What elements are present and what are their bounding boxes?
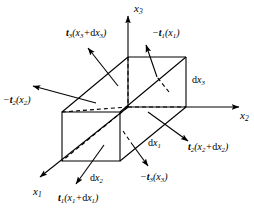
label-dx1: dx1 bbox=[148, 138, 161, 148]
axis-label-x2: x2 bbox=[240, 110, 249, 121]
label-dx2: dx2 bbox=[90, 173, 103, 183]
arrow-minus-t3 bbox=[123, 131, 148, 166]
axis-label-x1: x1 bbox=[33, 186, 42, 197]
label-t1-plus: t1(x1+dx1) bbox=[58, 193, 98, 203]
arrow-t3-plus bbox=[88, 48, 118, 86]
diagram-canvas bbox=[0, 0, 254, 212]
label-minus-t3: −t3(x3) bbox=[140, 172, 167, 182]
label-minus-t1: −t1(x1) bbox=[152, 28, 179, 38]
label-t2-plus: t2(x2+dx2) bbox=[188, 142, 228, 152]
label-dx3: dx3 bbox=[192, 75, 205, 85]
arrow-minus-t2 bbox=[33, 86, 96, 103]
label-t3-plus: t3(x3+dx3) bbox=[66, 28, 106, 38]
arrow-minus-t1 bbox=[146, 45, 169, 92]
label-minus-t2: −t2(x2) bbox=[3, 95, 30, 105]
stress-cube-diagram: x3 x2 x1 t3(x3+dx3) −t1(x1) −t2(x2) t2(x… bbox=[0, 0, 254, 212]
axis-label-x3: x3 bbox=[134, 3, 143, 14]
